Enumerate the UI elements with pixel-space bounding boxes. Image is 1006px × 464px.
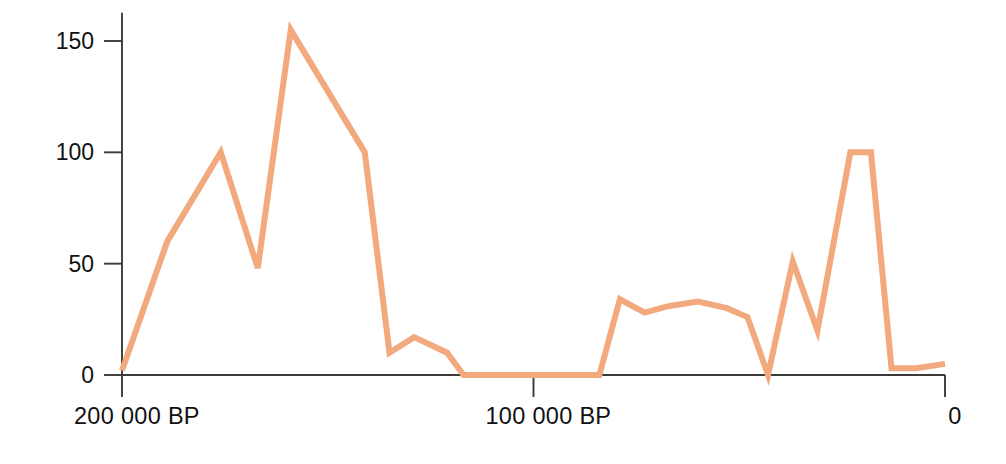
x-tick-label: 0 [948, 403, 961, 429]
y-tick-label: 50 [68, 251, 94, 277]
chart-background [0, 0, 1006, 464]
y-tick-label: 0 [81, 362, 94, 388]
y-tick-label: 100 [56, 139, 94, 165]
line-chart: 050100150 200 000 BP100 000 BP0 [0, 0, 1006, 464]
chart-figure: 050100150 200 000 BP100 000 BP0 [0, 0, 1006, 464]
x-tick-label: 200 000 BP [74, 403, 200, 429]
x-tick-label: 100 000 BP [486, 403, 612, 429]
y-tick-label: 150 [56, 28, 94, 54]
